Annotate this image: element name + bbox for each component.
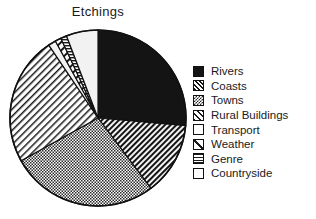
legend-item-weather: Weather [193, 137, 316, 152]
checkerboard-swatch [193, 95, 204, 106]
solid-black-swatch [193, 66, 204, 77]
white-swatch [193, 168, 204, 179]
white-swatch [193, 124, 204, 135]
legend-label: Weather [211, 138, 254, 150]
pie-slices-group [10, 30, 186, 206]
legend-item-transport: Transport [193, 122, 316, 137]
legend-item-genre: Genre [193, 152, 316, 167]
pie-chart-svg [0, 0, 196, 219]
legend-label: Rivers [211, 65, 244, 77]
diagonal-slash-swatch [193, 139, 204, 150]
legend-item-rivers: Rivers [193, 64, 316, 79]
horizontal-lines-swatch [193, 153, 204, 164]
legend-item-rural-buildings: Rural Buildings [193, 108, 316, 123]
pie-chart-figure: Etchings [0, 0, 316, 219]
pie-slice-rivers [98, 30, 186, 126]
legend-item-towns: Towns [193, 93, 316, 108]
chart-legend: Rivers Coasts Towns Rural Buildings Tran… [193, 64, 316, 181]
diagonal-hatch-dense-swatch [193, 80, 204, 91]
legend-item-countryside: Countryside [193, 166, 316, 181]
legend-item-coasts: Coasts [193, 79, 316, 94]
legend-label: Genre [211, 153, 243, 165]
legend-label: Rural Buildings [211, 109, 288, 121]
legend-label: Transport [211, 124, 260, 136]
legend-label: Countryside [211, 167, 272, 179]
diagonal-hatch-wide-swatch [193, 110, 204, 121]
diagonal-slash-mark [194, 140, 203, 149]
pie-chart-area [0, 0, 196, 219]
legend-label: Coasts [211, 80, 247, 92]
legend-label: Towns [211, 94, 244, 106]
